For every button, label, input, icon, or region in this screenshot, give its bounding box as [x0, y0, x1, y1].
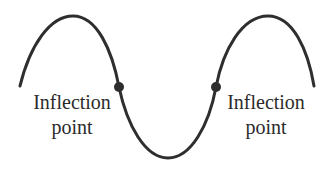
left-inflection-label: Inflection point — [17, 90, 127, 140]
inflection-diagram: Inflection point Inflection point — [0, 0, 334, 176]
right-label-line2: point — [211, 115, 321, 140]
right-label-line1: Inflection — [211, 90, 321, 115]
left-label-line1: Inflection — [17, 90, 127, 115]
right-inflection-label: Inflection point — [211, 90, 321, 140]
left-label-line2: point — [17, 115, 127, 140]
curve-graphic — [0, 0, 334, 176]
